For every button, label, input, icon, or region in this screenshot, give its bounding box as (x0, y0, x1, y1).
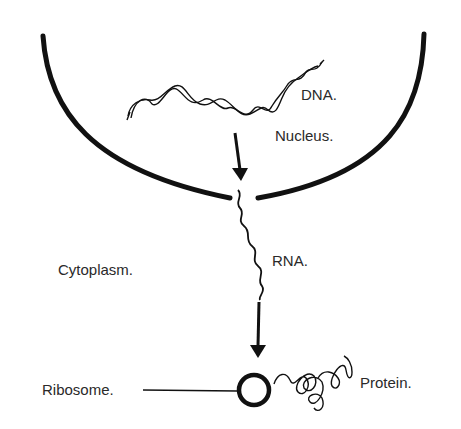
cytoplasm-label: Cytoplasm. (58, 262, 133, 277)
dna-helix-icon (127, 60, 324, 120)
ribosome-label: Ribosome. (42, 382, 114, 397)
central-dogma-diagram: DNA. Nucleus. RNA. Cytoplasm. Ribosome. … (0, 0, 461, 429)
dna-label: DNA. (301, 87, 337, 102)
ribosome-leader-line (143, 390, 237, 391)
arrow-rna-to-ribosome-icon (250, 302, 266, 358)
arrow-dna-to-rna-icon (232, 133, 248, 181)
nuclear-membrane-right (258, 34, 424, 198)
rna-strand-icon (238, 190, 263, 300)
protein-coil-icon (274, 356, 352, 410)
diagram-graphics (0, 0, 461, 429)
ribosome-icon (239, 375, 269, 405)
nuclear-membrane-left (43, 36, 230, 198)
protein-label: Protein. (360, 375, 412, 390)
nucleus-label: Nucleus. (275, 128, 333, 143)
rna-label: RNA. (272, 253, 308, 268)
